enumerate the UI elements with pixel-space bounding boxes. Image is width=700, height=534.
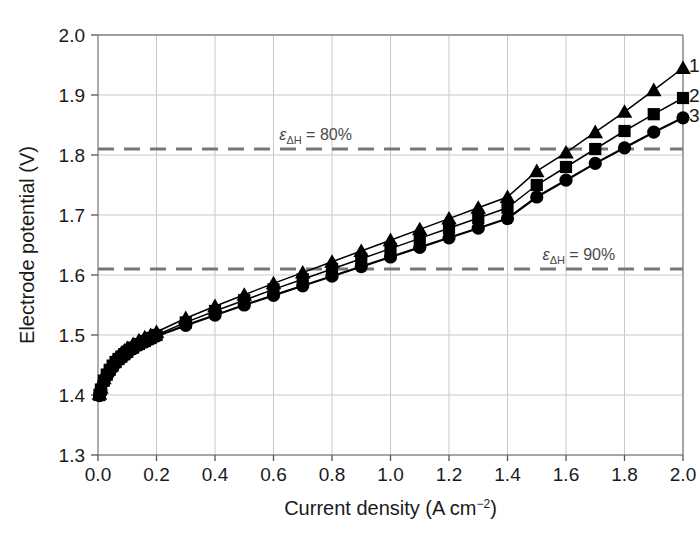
- series-label-3: 3: [689, 105, 700, 126]
- data-point: [472, 222, 485, 235]
- x-tick-label: 0.0: [85, 464, 111, 485]
- data-point: [238, 298, 251, 311]
- series-1: [92, 60, 691, 399]
- series-label-2: 2: [689, 85, 700, 106]
- x-tick-label: 1.0: [377, 464, 403, 485]
- data-point: [267, 289, 280, 302]
- data-point: [559, 174, 572, 187]
- series-1-line: [99, 68, 683, 394]
- y-tick-label: 1.5: [59, 325, 85, 346]
- x-tick-label: 1.4: [494, 464, 521, 485]
- data-point: [677, 92, 689, 104]
- series-1-markers: [92, 60, 691, 399]
- x-tick-label: 1.2: [436, 464, 462, 485]
- y-tick-label: 1.6: [59, 265, 85, 286]
- x-tick-label: 2.0: [670, 464, 696, 485]
- data-point: [296, 279, 309, 292]
- data-point: [384, 250, 397, 263]
- data-point: [501, 212, 514, 225]
- y-tick-label: 1.7: [59, 205, 85, 226]
- data-point: [617, 104, 633, 118]
- x-tick-label: 1.8: [611, 464, 637, 485]
- data-point: [208, 309, 221, 322]
- data-point: [648, 108, 660, 120]
- data-point: [355, 260, 368, 273]
- data-point: [531, 179, 543, 191]
- data-point: [529, 164, 545, 178]
- series-labels: 123: [689, 55, 700, 126]
- data-point: [560, 161, 572, 173]
- efficiency-90-line-label: εΔH = 90%: [543, 246, 616, 266]
- data-point: [618, 141, 631, 154]
- series-label-1: 1: [689, 55, 700, 76]
- data-point: [558, 145, 574, 159]
- x-tick-label: 0.8: [319, 464, 345, 485]
- data-point: [150, 330, 163, 343]
- y-tick-label: 1.3: [59, 445, 85, 466]
- data-point: [646, 83, 662, 97]
- data-point: [676, 111, 689, 124]
- polarization-curve-chart: 0.00.20.40.60.81.01.21.41.61.82.01.31.41…: [0, 0, 700, 534]
- y-tick-label: 1.8: [59, 145, 85, 166]
- y-axis-title: Electrode potential (V): [16, 146, 38, 344]
- data-point: [325, 270, 338, 283]
- data-point: [413, 241, 426, 254]
- data-point: [589, 143, 601, 155]
- x-tick-label: 0.2: [143, 464, 169, 485]
- efficiency-80-line-label: εΔH = 80%: [279, 126, 352, 146]
- data-point: [530, 190, 543, 203]
- data-point: [587, 125, 603, 139]
- data-point: [179, 319, 192, 332]
- data-point: [589, 157, 602, 170]
- x-axis-title: Current density (A cm−2): [284, 497, 497, 519]
- data-point: [647, 126, 660, 139]
- y-tick-label: 1.4: [59, 385, 86, 406]
- data-point: [470, 200, 486, 214]
- data-point: [618, 125, 630, 137]
- y-tick-label: 1.9: [59, 85, 85, 106]
- data-point: [442, 231, 455, 244]
- x-tick-label: 0.4: [202, 464, 229, 485]
- y-tick-label: 2.0: [59, 25, 85, 46]
- figure-container: 0.00.20.40.60.81.01.21.41.61.82.01.31.41…: [0, 0, 700, 534]
- x-tick-label: 1.6: [553, 464, 579, 485]
- x-tick-label: 0.6: [260, 464, 286, 485]
